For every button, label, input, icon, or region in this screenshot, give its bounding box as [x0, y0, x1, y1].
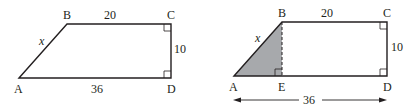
vertex-c: C: [383, 6, 391, 20]
right-angle-mark-c: [164, 24, 171, 31]
vertex-c: C: [167, 8, 175, 22]
label-top: 20: [104, 8, 116, 22]
label-right: 10: [391, 40, 403, 54]
vertex-b: B: [278, 6, 286, 20]
diagram: A B C D 20 10 36 x A B C D E 20 10 x 36: [0, 0, 416, 111]
label-right: 10: [174, 42, 186, 56]
label-slant: x: [254, 31, 261, 45]
figure-trapezoid-split: A B C D E 20 10 x 36: [229, 6, 403, 107]
label-bottom: 36: [91, 82, 103, 96]
vertex-a: A: [14, 82, 23, 96]
trapezoid-outline: [19, 24, 171, 78]
vertex-b: B: [63, 8, 71, 22]
label-bottom: 36: [303, 93, 315, 107]
label-slant: x: [38, 34, 45, 48]
vertex-d: D: [383, 80, 392, 94]
vertex-d: D: [167, 82, 176, 96]
arrowhead-left-icon: [233, 98, 241, 103]
label-top: 20: [321, 6, 333, 20]
right-angle-mark-d: [164, 71, 171, 78]
arrowhead-right-icon: [379, 98, 387, 103]
vertex-a: A: [229, 80, 238, 94]
figure-trapezoid: A B C D 20 10 36 x: [14, 8, 186, 96]
right-angle-mark-d: [380, 69, 387, 76]
vertex-e: E: [278, 80, 285, 94]
right-angle-mark-c: [380, 22, 387, 29]
